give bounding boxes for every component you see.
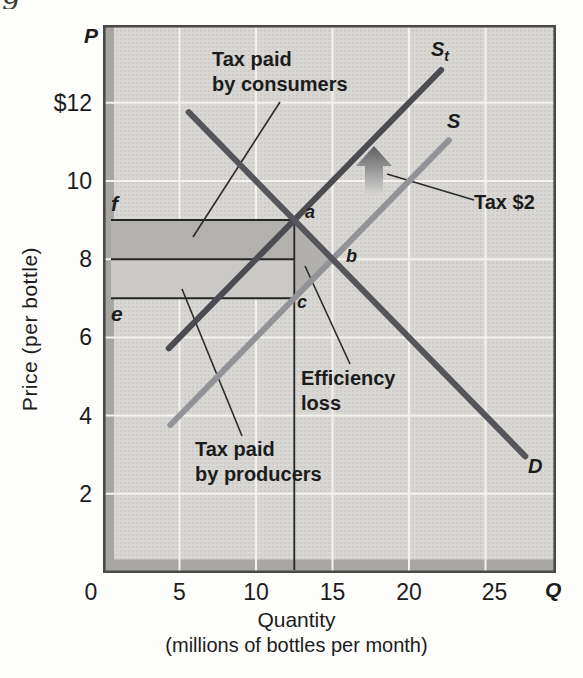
x-axis-subtitle: (millions of bottles per month) — [70, 634, 523, 657]
x-tick-label: 10 — [234, 579, 278, 606]
tax-paid-by-producers-region — [111, 259, 294, 298]
bottom-shadow-band — [105, 560, 554, 572]
y-tick-labels: $12108642 — [34, 0, 92, 578]
supply-curve-label: S — [447, 110, 460, 133]
plot-area — [103, 25, 556, 573]
x-tick-label: 5 — [158, 579, 202, 606]
tax-amount-label: Tax $2 — [474, 190, 535, 215]
st-label-main: S — [431, 38, 444, 60]
y-tick-label: 6 — [79, 324, 92, 351]
x-axis-title: Quantity — [70, 608, 523, 632]
x-tick-label: 15 — [311, 579, 355, 606]
demand-curve-label: D — [528, 455, 542, 478]
tax-paid-by-producers-label: Tax paid by producers — [195, 437, 322, 487]
x-tick-label: 20 — [387, 579, 431, 606]
tax-incidence-figure: g P Q Price (per bottle) Quantity (milli… — [0, 0, 583, 678]
chart-canvas — [103, 25, 556, 573]
point-c-label: c — [297, 292, 307, 313]
efficiency-loss-region — [294, 220, 332, 298]
y-tick-label: 10 — [66, 168, 92, 195]
y-tick-label: 8 — [79, 246, 92, 273]
y-tick-label: $12 — [54, 90, 92, 117]
y-tick-label: 2 — [79, 481, 92, 508]
efficiency-loss-label: Efficiency loss — [301, 366, 395, 416]
tax-paid-by-consumers-label: Tax paid by consumers — [212, 47, 348, 97]
point-a-label: a — [305, 202, 315, 223]
point-b-label: b — [346, 246, 357, 267]
supply-plus-tax-curve-label: St — [431, 38, 449, 64]
tax-paid-by-consumers-region — [111, 220, 294, 259]
st-label-subscript: t — [444, 48, 449, 64]
x-tick-label: 0 — [69, 579, 113, 606]
y-tick-label: 4 — [79, 403, 92, 430]
price-axis-point-e: e — [111, 302, 123, 326]
x-tick-labels: 0510152025 — [0, 579, 583, 605]
price-axis-point-f: f — [111, 192, 118, 216]
x-tick-label: 25 — [473, 579, 517, 606]
callout-line — [193, 102, 280, 237]
